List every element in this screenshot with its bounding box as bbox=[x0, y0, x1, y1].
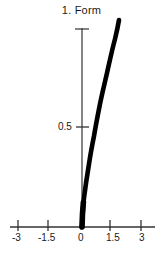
plot-figure: 1. Form -3 -1.5 0 1.5 3 0.5 bbox=[0, 0, 163, 256]
x-tick-label: 3 bbox=[139, 232, 145, 243]
x-tick-label: 0 bbox=[78, 232, 84, 243]
plot-canvas bbox=[0, 0, 163, 256]
x-tick-label: -3 bbox=[12, 232, 21, 243]
y-tick-label: 0.5 bbox=[58, 121, 72, 132]
data-curve-form bbox=[82, 20, 119, 227]
x-tick-label: 1.5 bbox=[106, 232, 120, 243]
x-tick-label: -1.5 bbox=[38, 232, 55, 243]
data-curve-foot bbox=[82, 202, 83, 227]
